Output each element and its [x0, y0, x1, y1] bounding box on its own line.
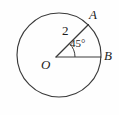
- radius-length-label: 2: [62, 24, 69, 37]
- main-circle: [17, 13, 101, 97]
- point-label-b: B: [104, 49, 112, 62]
- circle-diagram-canvas: [0, 0, 119, 115]
- point-label-a: A: [89, 8, 97, 21]
- point-label-o: O: [41, 58, 50, 71]
- geometry-figure: A B O 2 45°: [0, 0, 119, 115]
- angle-measure-label: 45°: [70, 38, 85, 49]
